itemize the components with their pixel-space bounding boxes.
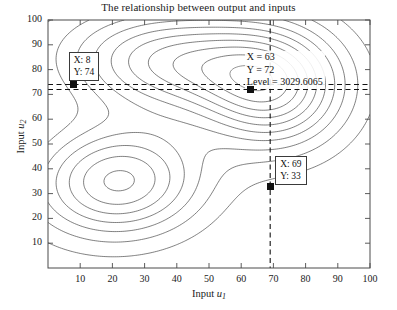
- marker-left-point[interactable]: [70, 81, 77, 88]
- x-tick-80: 80: [293, 273, 319, 284]
- x-tick-90: 90: [325, 273, 351, 284]
- datatip-center-level: Level = 3029.6065: [247, 76, 323, 89]
- x-axis-title-prefix: Input: [192, 288, 217, 299]
- contour-figure: The relationship between output and inpu…: [0, 0, 397, 310]
- y-tick-20: 20: [16, 211, 42, 222]
- y-axis-title: Input u2: [15, 72, 26, 202]
- y-axis-title-prefix: Input: [15, 129, 26, 154]
- x-tick-50: 50: [196, 273, 222, 284]
- x-tick-100: 100: [357, 273, 383, 284]
- x-tick-20: 20: [99, 273, 125, 284]
- datatip-center-x: X = 63: [247, 51, 323, 64]
- y-tick-100: 100: [16, 13, 42, 24]
- datatip-bottom-y: Y: 33: [280, 170, 301, 182]
- datatip-left[interactable]: X: 8 Y: 74: [69, 52, 100, 81]
- x-tick-30: 30: [132, 273, 158, 284]
- y-axis-title-sub: 2: [19, 119, 28, 123]
- y-tick-90: 90: [16, 38, 42, 49]
- y-axis-title-var: u: [15, 123, 26, 128]
- datatip-center[interactable]: X = 63 Y = 72 Level = 3029.6065: [245, 51, 325, 89]
- marker-bottom-point[interactable]: [267, 183, 274, 190]
- x-axis-title: Input u1: [48, 288, 370, 299]
- contour-plot-canvas: [0, 0, 397, 310]
- x-tick-10: 10: [67, 273, 93, 284]
- marker-center-point[interactable]: [247, 86, 254, 93]
- x-tick-60: 60: [228, 273, 254, 284]
- y-tick-10: 10: [16, 236, 42, 247]
- datatip-bottom-x: X: 69: [280, 158, 301, 170]
- datatip-left-x: X: 8: [74, 54, 95, 66]
- datatip-center-y: Y = 72: [247, 64, 323, 77]
- datatip-bottom[interactable]: X: 69 Y: 33: [275, 156, 306, 185]
- x-axis-title-sub: 1: [222, 292, 226, 301]
- x-tick-40: 40: [164, 273, 190, 284]
- datatip-left-y: Y: 74: [74, 66, 95, 78]
- x-tick-70: 70: [260, 273, 286, 284]
